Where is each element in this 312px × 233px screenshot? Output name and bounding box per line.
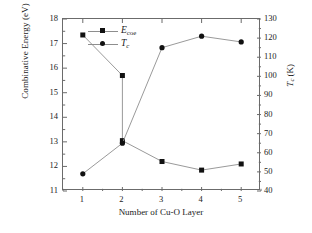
legend-item: Ecoe [88,25,136,38]
data-point-ecoe [239,161,244,166]
bottom-tick-label: 4 [198,195,202,204]
left-tick-label: 11 [50,186,58,195]
legend-label-sub: c [126,42,129,49]
data-point-tc [120,141,125,146]
left-tick-label: 12 [50,161,59,170]
left-tick-label: 13 [50,137,59,146]
bottom-tick-label: 1 [80,195,84,204]
figure: 1817161514131211 13012011010090807060504… [0,0,312,233]
bottom-tick-label: 5 [238,195,242,204]
bottom-axis-title: Number of Cu-O Layer [62,207,260,217]
left-tick-label: 17 [50,38,59,47]
right-tick-label: 130 [264,14,277,23]
left-tick-label: 14 [50,112,59,121]
legend-marker [100,41,105,46]
right-tick-label: 90 [264,90,273,99]
legend-marker [100,28,105,33]
legend-symbol [88,25,118,38]
legend-symbol [88,38,118,51]
right-tick-label: 120 [264,33,277,42]
right-axis-title-main: T [285,82,295,87]
left-tick-label: 18 [50,14,59,23]
bottom-tick-label: 2 [119,195,123,204]
legend: EcoeTc [88,25,136,51]
right-axis-title-sub: c [288,79,295,82]
left-tick-label: 16 [50,63,59,72]
left-tick-label: 15 [50,87,59,96]
bottom-tick-label: 3 [159,195,163,204]
left-axis-ticks: 1817161514131211 [34,18,58,190]
legend-label-sub: coe [127,29,136,36]
right-tick-label: 70 [264,128,273,137]
legend-item: Tc [88,38,136,51]
data-point-tc [80,171,85,176]
data-point-ecoe [120,73,125,78]
series-line-ecoe [83,35,241,170]
data-point-ecoe [80,32,85,37]
data-point-ecoe [160,159,165,164]
right-tick-label: 80 [264,109,273,118]
data-point-tc [159,45,164,50]
right-tick-label: 110 [264,52,276,61]
data-point-ecoe [199,168,204,173]
right-tick-label: 40 [264,186,273,195]
right-tick-label: 60 [264,148,273,157]
right-tick-label: 50 [264,167,273,176]
series-line-tc [83,36,241,174]
left-axis-title: Combinative Energy (eV) [20,0,30,131]
legend-label: Tc [121,37,129,52]
data-point-tc [239,39,244,44]
right-tick-label: 100 [264,71,277,80]
data-point-tc [199,34,204,39]
right-axis-title-unit: (K) [285,64,295,79]
bottom-axis-ticks: 12345 [62,193,260,207]
right-axis-title: Tc (K) [285,15,296,135]
